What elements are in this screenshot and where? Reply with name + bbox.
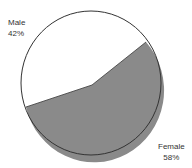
label-female-name: Female <box>158 141 185 152</box>
label-male-name: Male <box>8 17 25 28</box>
label-male-pct: 42% <box>8 28 25 39</box>
label-male: Male 42% <box>8 17 25 39</box>
label-female-pct: 58% <box>158 152 185 163</box>
label-female: Female 58% <box>158 141 185 163</box>
